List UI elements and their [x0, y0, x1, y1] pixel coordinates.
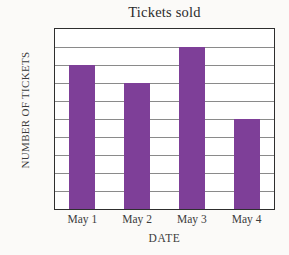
bar-slot: May 4	[219, 29, 274, 209]
bar[interactable]	[234, 119, 260, 209]
y-axis-title: NUMBER OF TICKETS	[19, 25, 31, 195]
x-tick-label: May 1	[55, 213, 110, 225]
bar-slot: May 1	[55, 29, 110, 209]
bar[interactable]	[179, 47, 205, 209]
chart-title: Tickets sold	[54, 4, 275, 21]
plot-area: 1009080706050403020100 May 1May 2May 3Ma…	[54, 28, 275, 210]
bar[interactable]	[124, 83, 150, 209]
x-axis-title: DATE	[54, 232, 275, 244]
bar-slot: May 3	[165, 29, 220, 209]
bar[interactable]	[69, 65, 95, 209]
bars-group: May 1May 2May 3May 4	[55, 29, 274, 209]
x-tick-label: May 4	[219, 213, 274, 225]
bar-slot: May 2	[110, 29, 165, 209]
x-tick-label: May 3	[165, 213, 220, 225]
bar-chart-figure: Tickets sold NUMBER OF TICKETS 100908070…	[0, 0, 289, 255]
x-tick-label: May 2	[110, 213, 165, 225]
